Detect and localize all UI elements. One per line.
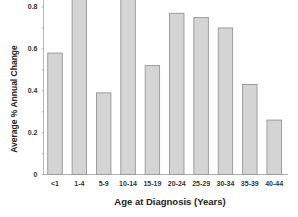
bars — [48, 0, 282, 175]
x-axis-title: Age at Diagnosis (Years) — [114, 196, 225, 207]
y-axis: 00.20.40.60.8 — [28, 0, 44, 178]
bar-chart: 00.20.40.60.8 <11-45-910-1415-1920-2425-… — [0, 0, 298, 217]
x-tick-label: 40-44 — [265, 180, 283, 187]
y-tick-label: 0.2 — [28, 129, 38, 136]
x-tick-label: 15-19 — [143, 180, 161, 187]
y-tick-label: 0.8 — [28, 3, 38, 10]
bar-25-29 — [194, 17, 209, 174]
x-tick-label: 25-29 — [192, 180, 210, 187]
bar-40-44 — [267, 120, 282, 174]
x-tick-label: 30-34 — [216, 180, 234, 187]
x-tick-label: 20-24 — [168, 180, 186, 187]
x-tick-label: 1-4 — [74, 180, 84, 187]
bar-1-4 — [72, 0, 87, 175]
x-tick-label: 5-9 — [99, 180, 109, 187]
y-axis-title: Average % Annual Change — [9, 45, 19, 153]
x-tick-label: 35-39 — [241, 180, 259, 187]
bar-15-19 — [145, 66, 160, 175]
bar-35-39 — [243, 84, 257, 174]
x-axis: <11-45-910-1415-1920-2425-2930-3435-3940… — [44, 175, 289, 188]
x-tick-label: 10-14 — [119, 180, 137, 187]
bar-5-9 — [96, 93, 111, 175]
y-tick-label: 0 — [34, 171, 38, 178]
bar-30-34 — [218, 28, 233, 175]
y-tick-label: 0.6 — [28, 45, 38, 52]
y-tick-label: 0.4 — [28, 87, 38, 94]
bar-10-14 — [121, 0, 136, 175]
x-tick-label: <1 — [51, 180, 59, 187]
bar-<1 — [48, 53, 63, 174]
bar-20-24 — [170, 13, 185, 174]
